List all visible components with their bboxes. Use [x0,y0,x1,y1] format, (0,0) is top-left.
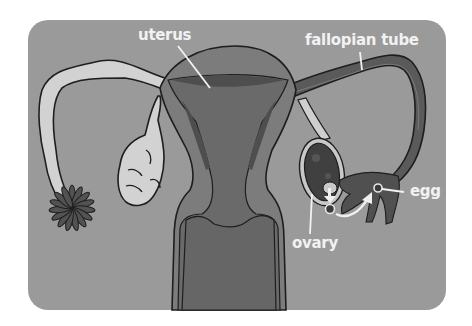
released-egg [326,205,335,214]
egg [374,184,382,192]
reproductive-diagram: uterus fallopian tube egg ovary [0,0,472,326]
uterus-label: uterus [138,28,191,43]
egg-label: egg [410,184,441,199]
ovary-follicle [325,173,331,179]
ovary-follicle [312,154,320,162]
fallopian-tube-label: fallopian tube [305,33,419,48]
vagina [182,216,276,310]
ovary-label: ovary [292,236,338,251]
